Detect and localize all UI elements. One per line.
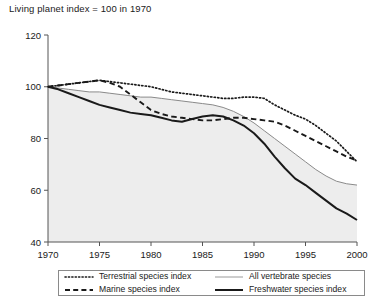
svg-text:120: 120 (25, 30, 41, 41)
y-axis-ticks (44, 35, 48, 242)
legend-item-all-vertebrate: All vertebrate species (214, 272, 371, 281)
svg-text:1970: 1970 (37, 249, 58, 260)
svg-text:60: 60 (30, 185, 41, 196)
legend-item-marine: Marine species index (64, 285, 214, 294)
svg-text:1985: 1985 (192, 249, 213, 260)
legend-swatch-freshwater (214, 286, 244, 294)
legend-item-freshwater: Freshwater species index (214, 285, 371, 294)
legend-swatch-terrestrial (64, 273, 94, 281)
svg-text:1995: 1995 (295, 249, 316, 260)
chart-plot-area: 406080100120 197019751980198519901995200… (0, 0, 374, 300)
x-axis-tick-labels: 1970197519801985199019952000 (37, 249, 367, 260)
legend-label-terrestrial: Terrestrial species index (99, 272, 191, 281)
chart-container: Living planet index = 100 in 1970 406080… (0, 0, 374, 300)
legend: Terrestrial species index All vertebrate… (58, 270, 365, 296)
svg-text:1980: 1980 (140, 249, 161, 260)
legend-swatch-all-vertebrate (214, 273, 244, 281)
legend-label-marine: Marine species index (99, 285, 180, 294)
svg-text:2000: 2000 (346, 249, 367, 260)
svg-text:80: 80 (30, 133, 41, 144)
svg-text:1975: 1975 (89, 249, 110, 260)
shaded-area (48, 87, 357, 242)
legend-swatch-marine (64, 286, 94, 294)
svg-text:40: 40 (30, 237, 41, 248)
legend-label-freshwater: Freshwater species index (249, 285, 346, 294)
svg-text:1990: 1990 (243, 249, 264, 260)
legend-label-all-vertebrate: All vertebrate species (249, 272, 331, 281)
y-axis-tick-labels: 406080100120 (25, 30, 41, 248)
x-axis-ticks (48, 242, 357, 246)
legend-item-terrestrial: Terrestrial species index (64, 272, 214, 281)
svg-text:100: 100 (25, 81, 41, 92)
